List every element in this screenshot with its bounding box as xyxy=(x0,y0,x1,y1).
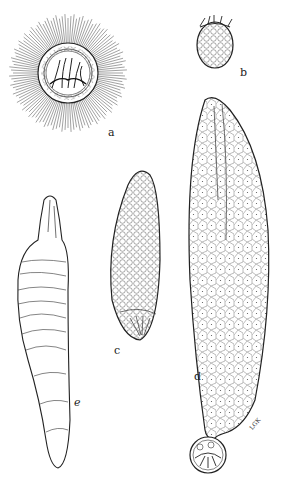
label-b: b xyxy=(240,66,247,79)
figure-a xyxy=(9,14,127,132)
label-c: c xyxy=(114,344,120,357)
label-a: a xyxy=(108,126,115,139)
figure-e xyxy=(18,196,70,468)
figure-c xyxy=(111,171,160,340)
figure-b xyxy=(197,15,233,68)
label-e: e xyxy=(74,396,81,409)
label-d: d xyxy=(194,370,201,383)
illustration-canvas xyxy=(0,0,292,480)
